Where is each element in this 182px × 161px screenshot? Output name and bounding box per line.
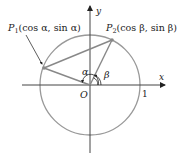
segment-P1-P2 xyxy=(44,40,112,68)
y-axis-label: y xyxy=(95,6,102,16)
p2-label: P2(cos β, sin β) xyxy=(105,22,177,35)
point-P1 xyxy=(42,66,46,70)
origin-label: O xyxy=(80,89,88,100)
unit-tick-label: 1 xyxy=(142,89,148,99)
p1-pointer-arrow xyxy=(26,35,42,64)
p1-label: P1(cos α, sin α) xyxy=(7,22,81,35)
beta-arc-inner xyxy=(94,78,99,85)
unit-circle-diagram: P1(cos α, sin α) P2(cos β, sin β) y x O … xyxy=(0,0,182,161)
x-axis-label: x xyxy=(159,72,164,82)
beta-label: β xyxy=(103,69,110,80)
point-P2 xyxy=(110,38,114,42)
alpha-label: α xyxy=(82,66,89,77)
